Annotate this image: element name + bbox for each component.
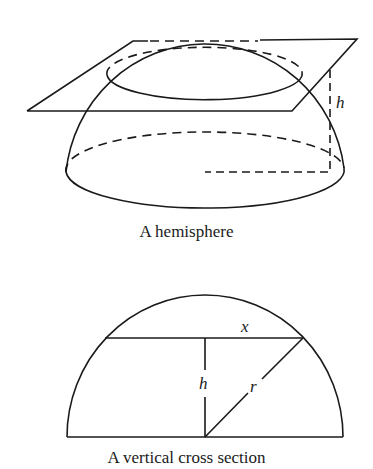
height-line-dashed bbox=[205, 70, 330, 172]
cross-section-ellipse-front bbox=[107, 72, 302, 100]
base-ellipse-back-dashed bbox=[66, 132, 344, 172]
radius-label: r bbox=[250, 377, 257, 396]
height-label: h bbox=[336, 93, 345, 112]
half-chord-label: x bbox=[240, 317, 249, 336]
base-ellipse-front bbox=[66, 168, 344, 208]
hemisphere-figure: h bbox=[27, 39, 357, 208]
hemisphere-dome-outline bbox=[66, 44, 344, 172]
height-label: h bbox=[199, 374, 208, 393]
cross-section-figure: x h r bbox=[67, 295, 343, 437]
cross-section-caption: A vertical cross section bbox=[0, 448, 373, 468]
hemisphere-caption: A hemisphere bbox=[0, 222, 373, 242]
